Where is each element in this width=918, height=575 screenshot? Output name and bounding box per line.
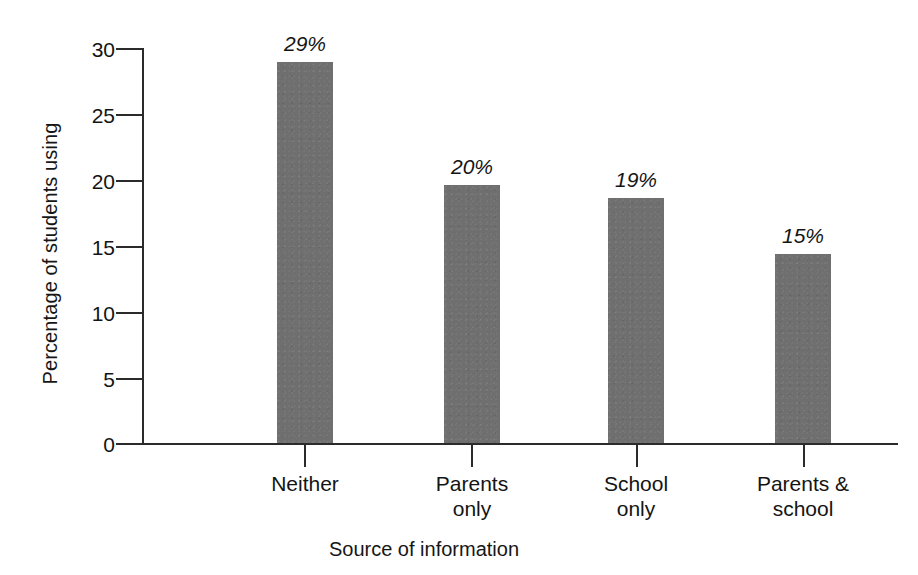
- bar-parents-only[interactable]: [444, 185, 500, 443]
- x-tick-mark-neither: [304, 445, 306, 467]
- y-tick-label-25: 25: [55, 105, 115, 126]
- x-axis-line: [131, 443, 898, 445]
- y-tick-label-0: 0: [55, 434, 115, 455]
- y-tick-mark-25: [116, 114, 143, 116]
- bar-chart: Percentage of students using 30 25 20 15…: [0, 0, 918, 575]
- value-label-parents-only: 20%: [407, 156, 537, 177]
- y-tick-label-15: 15: [55, 237, 115, 258]
- x-axis-title-text: Source of information: [329, 538, 519, 561]
- x-tick-mark-school-only: [636, 445, 638, 467]
- y-tick-label-5: 5: [55, 369, 115, 390]
- bar-school-only[interactable]: [608, 198, 664, 443]
- value-label-neither: 29%: [240, 33, 370, 54]
- value-label-school-only: 19%: [571, 169, 701, 190]
- y-axis-tick-labels: 30 25 20 15 10 5 0: [55, 0, 115, 575]
- x-tick-mark-parents-and-school: [803, 445, 805, 467]
- y-tick-mark-30: [116, 48, 143, 50]
- x-axis-title: Source of information: [0, 538, 918, 561]
- x-category-label-parents-and-school: Parents & school: [708, 472, 898, 522]
- y-tick-mark-10: [116, 312, 143, 314]
- y-tick-mark-5: [116, 378, 143, 380]
- x-category-label-school-only: School only: [541, 472, 731, 522]
- y-axis-line: [142, 48, 144, 445]
- y-tick-label-30: 30: [55, 39, 115, 60]
- x-category-label-parents-only: Parents only: [377, 472, 567, 522]
- y-tick-label-10: 10: [55, 303, 115, 324]
- value-label-parents-and-school: 15%: [738, 225, 868, 246]
- x-category-label-neither: Neither: [210, 472, 400, 497]
- bar-parents-and-school[interactable]: [775, 254, 831, 443]
- x-tick-mark-parents-only: [471, 445, 473, 467]
- bar-neither[interactable]: [277, 62, 333, 443]
- y-tick-label-20: 20: [55, 171, 115, 192]
- y-tick-mark-15: [116, 246, 143, 248]
- y-tick-mark-20: [116, 180, 143, 182]
